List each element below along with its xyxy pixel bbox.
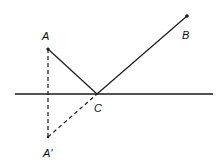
reflection-diagram: A B C A' — [0, 0, 221, 162]
label-b: B — [182, 29, 189, 41]
segment-a-c — [48, 49, 97, 94]
point-a — [46, 47, 49, 50]
segment-c-b — [97, 16, 187, 94]
segment-a-prime-c — [48, 94, 97, 137]
label-a: A — [41, 30, 49, 42]
point-a-prime — [47, 136, 49, 138]
label-a-prime: A' — [42, 147, 53, 159]
point-b — [185, 14, 189, 18]
label-c: C — [94, 102, 102, 114]
